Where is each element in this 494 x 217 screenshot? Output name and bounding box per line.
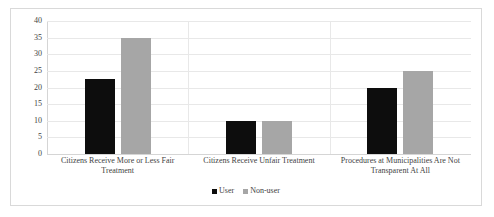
category-label-line: Citizens Receive More or Less Fair xyxy=(47,156,188,166)
bar xyxy=(262,121,292,154)
bar xyxy=(121,38,151,154)
bar-group xyxy=(188,21,329,154)
bar-group xyxy=(47,21,188,154)
category-label-line: Transparent At All xyxy=(330,166,471,176)
bar xyxy=(226,121,256,154)
chart-frame: 0510152025303540 Citizens Receive More o… xyxy=(10,8,482,206)
legend-swatch-icon xyxy=(243,189,248,194)
legend-item-label: Non-user xyxy=(250,187,280,195)
x-axis-category-labels: Citizens Receive More or Less FairTreatm… xyxy=(47,156,471,186)
x-axis-category-label: Procedures at Municipalities Are NotTran… xyxy=(330,156,471,176)
y-axis-tick-label: 40 xyxy=(34,17,42,25)
x-axis-category-label: Citizens Receive More or Less FairTreatm… xyxy=(47,156,188,176)
chart-legend: UserNon-user xyxy=(11,187,481,195)
category-label-line: Treatment xyxy=(47,166,188,176)
y-axis-tick-label: 30 xyxy=(34,50,42,58)
legend-item-user[interactable]: User xyxy=(212,187,234,195)
category-label-line: Citizens Receive Unfair Treatment xyxy=(188,156,329,166)
gridline xyxy=(47,154,471,155)
y-axis-tick-label: 25 xyxy=(34,67,42,75)
y-axis-tick-label: 15 xyxy=(34,100,42,108)
y-axis-tick-label: 10 xyxy=(34,117,42,125)
legend-item-non-user[interactable]: Non-user xyxy=(243,187,280,195)
y-axis-tick-label: 35 xyxy=(34,34,42,42)
y-axis-tick-label: 0 xyxy=(38,150,42,158)
legend-item-label: User xyxy=(219,187,234,195)
x-axis-category-label: Citizens Receive Unfair Treatment xyxy=(188,156,329,166)
bar xyxy=(367,88,397,155)
plot-area: 0510152025303540 xyxy=(47,21,471,154)
legend-swatch-icon xyxy=(212,189,217,194)
y-axis-tick-label: 5 xyxy=(38,133,42,141)
bar xyxy=(403,71,433,154)
category-label-line: Procedures at Municipalities Are Not xyxy=(330,156,471,166)
bar xyxy=(85,79,115,154)
y-axis-tick-label: 20 xyxy=(34,84,42,92)
bar-group xyxy=(330,21,471,154)
